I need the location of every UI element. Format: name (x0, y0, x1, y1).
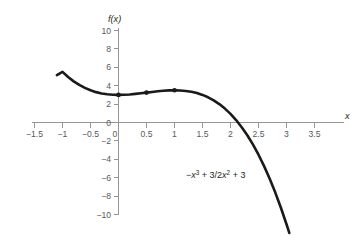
function-curve (57, 72, 289, 233)
x-axis-label: x (344, 111, 350, 121)
x-tick-label: 2 (228, 129, 233, 139)
x-tick-label: 0.5 (141, 129, 153, 139)
data-point-marker (116, 93, 121, 98)
y-tick-label: 2 (106, 99, 111, 109)
x-tick-label: 1.5 (197, 129, 209, 139)
x-tick-label: 3.5 (309, 129, 321, 139)
x-tick-label: −0.5 (82, 129, 99, 139)
equation-tail: + 3 (230, 170, 245, 180)
y-tick-label: −2 (101, 136, 111, 146)
equation-coefficient: 3/2 (210, 170, 223, 180)
y-tick-label: 8 (106, 44, 111, 54)
x-tick-label: 1 (172, 129, 177, 139)
y-tick-label: −10 (96, 210, 111, 220)
x-tick-label: 0 (113, 129, 118, 139)
plot-canvas: −1.5 −1 −0.5 0 0.5 1 1.5 2 2.5 3 3.5 10 … (0, 0, 357, 238)
data-point-marker (172, 88, 177, 93)
y-axis-label: f(x) (108, 14, 121, 24)
y-tick-label: 10 (101, 26, 111, 36)
equation-annotation: −x3 + 3/2x2 + 3 (186, 169, 245, 180)
data-point-marker (144, 90, 149, 95)
equation-plus-1: + (199, 170, 209, 180)
y-tick-label: 0 (106, 118, 111, 128)
y-tick-label: 6 (106, 62, 111, 72)
cubic-function-chart: −1.5 −1 −0.5 0 0.5 1 1.5 2 2.5 3 3.5 10 … (0, 0, 357, 238)
y-tick-label: 4 (106, 81, 111, 91)
y-tick-label: −6 (101, 173, 111, 183)
y-tick-label: −4 (101, 154, 111, 164)
y-tick-label: −8 (101, 191, 111, 201)
x-axis-ticks (35, 123, 315, 128)
x-tick-labels: −1.5 −1 −0.5 0 0.5 1 1.5 2 2.5 3 3.5 (26, 129, 321, 139)
x-tick-label: 2.5 (253, 129, 265, 139)
x-tick-label: −1.5 (26, 129, 43, 139)
x-tick-label: −1 (58, 129, 68, 139)
x-tick-label: 3 (284, 129, 289, 139)
